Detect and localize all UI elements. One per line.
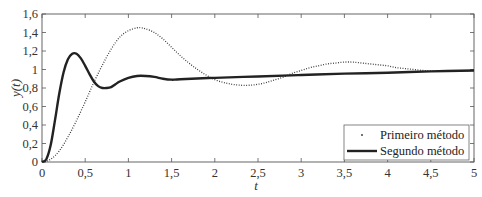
x-tick-label: 4,5 xyxy=(423,166,439,180)
legend: Primeiro método Segundo método xyxy=(344,125,469,160)
y-tick-label: 0 xyxy=(32,155,38,169)
x-tick-label: 4 xyxy=(384,166,391,180)
x-tick-label: 5 xyxy=(471,166,477,180)
x-tick-label: 3 xyxy=(298,166,304,180)
x-tick-label: 2 xyxy=(212,166,218,180)
x-tick-label: 0 xyxy=(39,166,45,180)
y-tick-label: 1 xyxy=(32,63,38,77)
legend-marker-dotted xyxy=(361,134,363,136)
x-tick-label: 3,5 xyxy=(337,166,353,180)
x-tick-label: 2,5 xyxy=(250,166,266,180)
legend-label-primeiro: Primeiro método xyxy=(380,128,464,142)
x-tick-label: 1,5 xyxy=(164,166,180,180)
y-tick-label: 0,4 xyxy=(22,118,38,132)
y-tick-label: 1,2 xyxy=(22,44,38,58)
y-tick-label: 0,2 xyxy=(22,137,38,151)
y-tick-label: 0,6 xyxy=(22,100,38,114)
y-tick-label: 0,8 xyxy=(22,81,38,95)
legend-label-segundo: Segundo método xyxy=(380,144,464,158)
y-tick-label: 1,4 xyxy=(22,26,38,40)
x-tick-label: 0,5 xyxy=(77,166,93,180)
y-axis-title: y(t) xyxy=(8,79,23,99)
x-axis-title: t xyxy=(254,178,258,193)
y-tick-label: 1,6 xyxy=(22,7,38,21)
x-tick-label: 1 xyxy=(125,166,131,180)
step-response-chart: 00,511,522,533,544,55 00,20,40,60,811,21… xyxy=(0,0,482,197)
